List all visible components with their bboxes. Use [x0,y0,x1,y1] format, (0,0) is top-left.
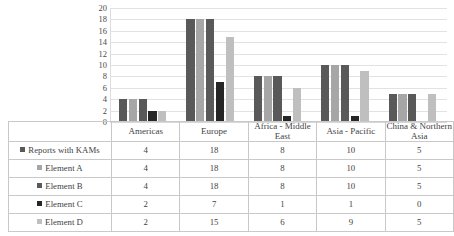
table-cell: 0 [385,196,453,214]
y-axis-tick-label: 14 [99,38,108,47]
legend-swatch-icon [37,183,42,188]
table-cell: 1 [317,196,385,214]
legend-row-label-cell: Element A [9,160,112,178]
table-column-header: Asia - Pacific [317,122,385,142]
bar [321,65,329,122]
legend-swatch-icon [37,165,42,170]
data-table: AmericasEuropeAfrica - Middle EastAsia -… [8,121,454,232]
legend-series-label: Element C [45,200,82,210]
table-cell: 15 [180,214,248,232]
chart-plot-area: 02468101214161820 [0,8,453,130]
bar [119,99,127,122]
bar [273,76,281,122]
bar-group [177,8,244,122]
y-axis-tick-label: 4 [103,95,107,104]
bar-group [312,8,379,122]
table-cell: 2 [112,196,180,214]
table-cell: 6 [248,214,316,232]
legend-row-label-cell: Reports with KAMs [9,142,112,160]
y-axis-tick-label: 2 [103,106,107,115]
table-cell: 2 [112,214,180,232]
table-cell: 18 [180,142,248,160]
table-column-header: Americas [112,122,180,142]
y-axis-tick-label: 18 [99,15,108,24]
table-cell: 5 [385,214,453,232]
legend-swatch-icon [20,147,25,152]
bar [196,19,204,122]
bar [216,82,224,122]
table-column-header: Africa - Middle East [248,122,316,142]
chart-bars-layer [110,8,447,122]
bar-group [380,8,447,122]
bar [331,65,339,122]
table-header-row: AmericasEuropeAfrica - Middle EastAsia -… [9,122,454,142]
bar [254,76,262,122]
table-cell: 5 [385,142,453,160]
bar [129,99,137,122]
bar [398,94,406,123]
legend-series-label: Element B [45,182,82,192]
table-cell: 10 [317,142,385,160]
table-cell: 8 [248,160,316,178]
y-axis-tick-label: 6 [103,84,107,93]
bar [428,94,436,123]
bar-group [245,8,312,122]
table-cell: 9 [317,214,385,232]
table-cell: 18 [180,178,248,196]
bar [186,19,194,122]
table-column-header: Europe [180,122,248,142]
table-row: Element A4188105 [9,160,454,178]
table-cell: 8 [248,178,316,196]
bar [293,88,301,122]
table-cell: 4 [112,160,180,178]
legend-swatch-icon [37,201,42,206]
table-row: Element B4188105 [9,178,454,196]
legend-swatch-icon [37,219,42,224]
table-cell: 5 [385,178,453,196]
table-cell: 1 [248,196,316,214]
y-axis-tick-label: 12 [99,49,108,58]
bar [341,65,349,122]
y-axis-tick-label: 16 [99,27,108,36]
bar [360,71,368,122]
legend-row-label-cell: Element D [9,214,112,232]
table-row: Reports with KAMs4188105 [9,142,454,160]
data-table-container: AmericasEuropeAfrica - Middle EastAsia -… [8,121,447,228]
bar [408,94,416,123]
table-row: Element C27110 [9,196,454,214]
table-cell: 10 [317,178,385,196]
table-cell: 18 [180,160,248,178]
bar-group [110,8,177,122]
table-row: Element D215695 [9,214,454,232]
legend-series-label: Element D [45,218,83,228]
table-cell: 4 [112,142,180,160]
y-axis-tick-label: 8 [103,72,107,81]
table-cell: 7 [180,196,248,214]
bar [264,76,272,122]
legend-row-label-cell: Element B [9,178,112,196]
table-cell: 5 [385,160,453,178]
table-corner-cell [9,122,112,142]
legend-series-label: Element A [45,164,82,174]
y-axis-tick-label: 20 [99,4,108,13]
bar [226,37,234,123]
legend-series-label: Reports with KAMs [28,146,99,156]
legend-row-label-cell: Element C [9,196,112,214]
bar [206,19,214,122]
table-cell: 10 [317,160,385,178]
table-cell: 8 [248,142,316,160]
y-axis-tick-labels: 02468101214161820 [88,8,110,122]
table-cell: 4 [112,178,180,196]
y-axis-tick-label: 10 [99,61,108,70]
table-column-header: China & Northern Asia [385,122,453,142]
bar [389,94,397,123]
bar [139,99,147,122]
